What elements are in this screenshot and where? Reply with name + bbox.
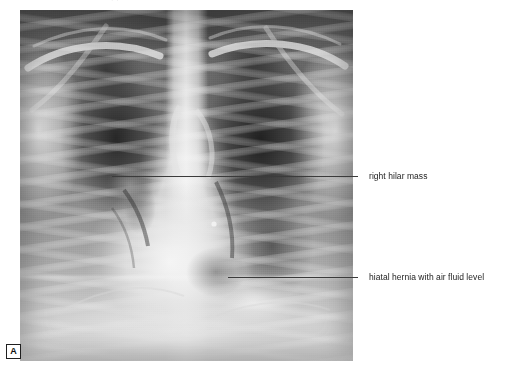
annotation-label-hiatal-hernia: hiatal hernia with air fluid level [369, 272, 484, 282]
bony-thorax-overlay [20, 10, 353, 361]
left-first-rib [210, 27, 340, 44]
radiograph-base-tone [20, 10, 353, 361]
right-lower-lobe-vessels [112, 208, 134, 268]
right-hemidiaphragm [64, 288, 184, 310]
annotation-label-right-hilar-mass: right hilar mass [369, 171, 427, 181]
left-hemidiaphragm [216, 302, 330, 316]
right-clavicle [28, 46, 160, 68]
left-heart-border-upper [196, 110, 212, 178]
left-clavicle [212, 44, 345, 66]
cropped-caption-ghost-text: iiiii ,i, i ii i [96, 0, 137, 1]
right-hilar-mass-opacity [20, 10, 353, 361]
right-scapula [32, 26, 106, 110]
chest-radiograph-image [20, 10, 353, 361]
left-lung-field [20, 10, 353, 361]
cardiac-silhouette-diaphragm [20, 10, 353, 361]
leader-line-hiatal-hernia [228, 277, 358, 278]
panel-letter-badge: A [6, 344, 21, 359]
spine-mediastinum-column [20, 10, 353, 361]
film-grain [20, 10, 353, 361]
calcified-nodule [211, 221, 216, 226]
left-hilar-vessels [216, 182, 232, 258]
soft-tissue-shoulders [20, 10, 353, 361]
rib-shadows-left [20, 10, 353, 361]
right-lung-field [20, 10, 353, 361]
cropped-caption-strip: iiiii ,i, i ii i [0, 0, 511, 9]
rib-shadows-right [20, 10, 353, 361]
leader-line-right-hilar-mass [112, 176, 358, 177]
right-first-rib [34, 29, 166, 46]
aortic-knob [172, 106, 180, 174]
right-hilar-vessels [124, 190, 148, 246]
hiatal-hernia-air-fluid-level [20, 10, 353, 361]
left-scapula [266, 28, 342, 114]
plate-vignette [20, 10, 353, 361]
